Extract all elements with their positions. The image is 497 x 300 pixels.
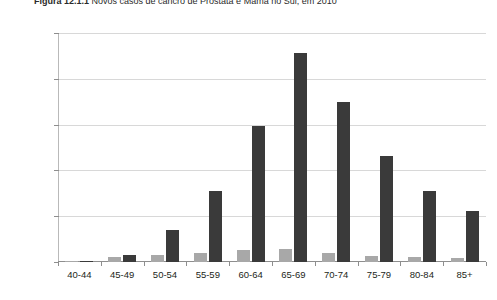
x-tick-label-40-44: 40-44: [67, 269, 91, 280]
bar-group: [144, 33, 187, 262]
bar-group: [358, 33, 401, 262]
figure-title-label: Figura 12.1.1: [34, 0, 89, 6]
bar-group: [272, 33, 315, 262]
x-tick-label-65-69: 65-69: [281, 269, 305, 280]
x-tick-mark: [486, 262, 487, 266]
bar-serie-escura-65-69: [294, 53, 307, 262]
bar-group: [101, 33, 144, 262]
bar-serie-escura-55-59: [209, 191, 222, 262]
figure-title-text: Novos casos de cancro de Próstata e Mama…: [92, 0, 337, 6]
x-tick-label-50-54: 50-54: [153, 269, 177, 280]
x-tick-label-45-49: 45-49: [110, 269, 134, 280]
bar-serie-clara-45-49: [108, 257, 121, 262]
x-tick-label-80-84: 80-84: [410, 269, 434, 280]
x-tick-mark: [400, 262, 401, 266]
bar-serie-escura-85+: [466, 211, 479, 262]
figure-title-strip: Figura 12.1.1 Novos casos de cancro de P…: [0, 0, 497, 9]
bar-serie-clara-65-69: [279, 249, 292, 262]
bar-serie-clara-80-84: [408, 257, 421, 262]
x-tick-mark: [186, 262, 187, 266]
bar-serie-clara-50-54: [151, 255, 164, 262]
bar-serie-escura-70-74: [337, 102, 350, 262]
bar-group: [229, 33, 272, 262]
bar-group: [315, 33, 358, 262]
bar-serie-escura-40-44: [80, 261, 93, 262]
x-tick-mark: [144, 262, 145, 266]
bar-group: [58, 33, 101, 262]
x-tick-label-85+: 85+: [457, 269, 473, 280]
bar-serie-escura-45-49: [123, 255, 136, 262]
bar-serie-clara-55-59: [194, 253, 207, 262]
x-tick-label-70-74: 70-74: [324, 269, 348, 280]
x-tick-mark: [358, 262, 359, 266]
bar-serie-escura-50-54: [166, 230, 179, 262]
bar-group: [443, 33, 486, 262]
bar-chart: 05001.0001.5002.0002.500 40-4445-4950-54…: [0, 18, 497, 282]
bar-serie-clara-60-64: [237, 250, 250, 262]
x-tick-mark: [101, 262, 102, 266]
bar-serie-clara-40-44: [65, 261, 78, 262]
x-tick-label-60-64: 60-64: [238, 269, 262, 280]
bar-series-container: [58, 33, 486, 262]
bar-serie-clara-70-74: [322, 253, 335, 262]
bar-serie-escura-80-84: [423, 191, 436, 262]
bar-serie-clara-75-79: [365, 256, 378, 262]
x-tick-mark: [272, 262, 273, 266]
bar-group: [186, 33, 229, 262]
bar-serie-escura-60-64: [252, 126, 265, 262]
bar-serie-escura-75-79: [380, 156, 393, 262]
x-tick-label-75-79: 75-79: [367, 269, 391, 280]
figure-footer-strip: [0, 285, 497, 300]
x-tick-label-55-59: 55-59: [196, 269, 220, 280]
plot-area: 05001.0001.5002.0002.500 40-4445-4950-54…: [58, 33, 486, 262]
bar-serie-clara-85+: [451, 258, 464, 262]
x-tick-mark: [229, 262, 230, 266]
x-tick-mark: [315, 262, 316, 266]
x-tick-mark: [443, 262, 444, 266]
figure-title: Figura 12.1.1 Novos casos de cancro de P…: [34, 0, 337, 7]
x-tick-mark: [58, 262, 59, 266]
bar-group: [400, 33, 443, 262]
